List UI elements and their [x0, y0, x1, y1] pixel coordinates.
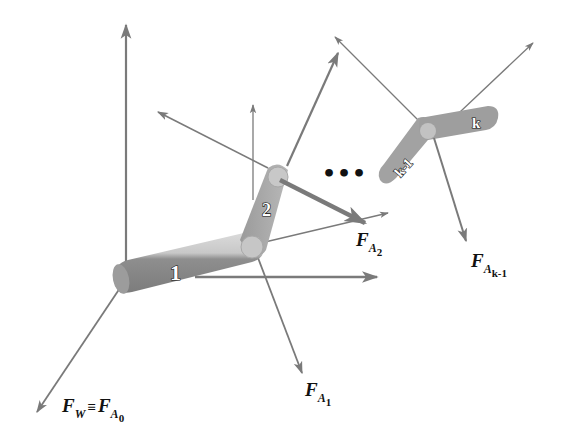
force-a1-arrow	[255, 250, 302, 373]
link-2-label: 2	[262, 200, 271, 220]
joint-k-1	[420, 123, 436, 139]
joint-2-up-axis-arrow	[287, 53, 338, 166]
joint-2-left-axis-arrow	[158, 112, 268, 168]
joint-k-1-right-axis-arrow	[460, 43, 533, 112]
kinematic-chain-diagram: 1 2 k-1 k ••• FW≡FA0 FA1 FA2	[0, 0, 563, 444]
force-ak-1-index: k-1	[492, 267, 507, 279]
force-a1-index: 1	[326, 396, 332, 408]
force-a2-index: 2	[377, 246, 383, 258]
force-ak-1-label: FAk-1	[471, 251, 507, 270]
force-a2-arrow	[280, 180, 365, 223]
base-frame-axes	[37, 25, 377, 412]
force-ak-1-sub: A	[484, 262, 492, 276]
force-a2-sub: A	[369, 241, 377, 255]
link-1-label: 1	[170, 260, 181, 285]
ellipsis: •••	[322, 163, 367, 185]
joint-k-1-left-axis-arrow	[335, 37, 420, 122]
equivalence-symbol: ≡	[87, 399, 96, 415]
force-a1-main: F	[305, 379, 318, 400]
link-k-label: k	[472, 115, 481, 131]
force-ak-1-arrow	[434, 138, 466, 241]
force-a1-label: FA1	[305, 380, 331, 399]
joint-1	[241, 236, 263, 258]
force-world-label: FW≡FA0	[62, 396, 124, 415]
force-ak-1-main: F	[471, 250, 484, 271]
joint-2-frame	[158, 53, 338, 168]
force-a2-main: F	[356, 229, 369, 250]
distal-links: k-1 k	[335, 37, 533, 241]
force-world-sub: W	[75, 407, 86, 421]
force-a2-label: FA2	[356, 230, 382, 249]
force-a1-sub: A	[318, 391, 326, 405]
force-a0-main: F	[98, 395, 111, 416]
world-force-arrow	[37, 288, 120, 412]
force-a0-sub: A	[111, 407, 119, 421]
force-a0-index: 0	[119, 412, 125, 424]
force-world-main: F	[62, 395, 75, 416]
diagram-graphics: 1 2 k-1 k	[0, 0, 563, 444]
